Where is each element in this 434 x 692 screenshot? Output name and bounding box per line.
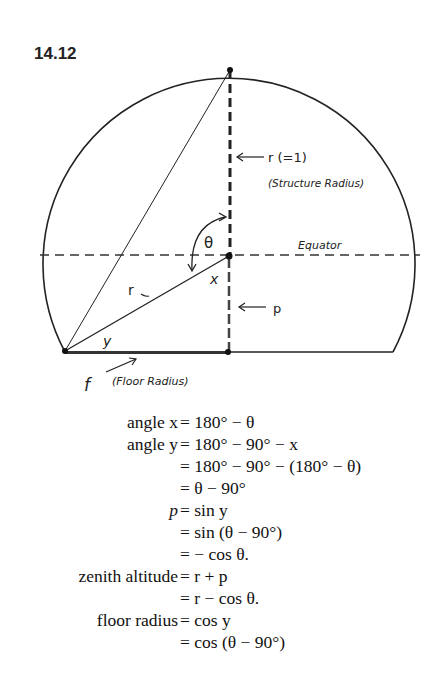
theta-label: θ xyxy=(204,234,213,252)
radius-line xyxy=(65,256,229,351)
equation-lhs: angle x xyxy=(127,412,178,433)
equation-line: = sin (θ − 90°) xyxy=(0,522,434,544)
equation-rhs: = cos (θ − 90°) xyxy=(180,632,285,653)
equation-rhs: = 180° − θ xyxy=(180,412,255,433)
r-radius-label: r xyxy=(128,282,134,298)
equation-line: floor radius = cos y xyxy=(0,610,434,632)
y-angle-label: y xyxy=(102,333,112,349)
equation-line: = θ − 90° xyxy=(0,478,434,500)
top-point xyxy=(227,67,233,73)
equation-rhs: = 180° − 90° − (180° − θ) xyxy=(180,456,361,477)
equation-lhs: zenith altitude xyxy=(78,566,178,587)
equation-line: = − cos θ. xyxy=(0,544,434,566)
equator-label: Equator xyxy=(298,239,343,252)
equation-rhs: = r + p xyxy=(180,566,227,587)
equation-line: angle x = 180° − θ xyxy=(0,412,434,434)
equation-line: = cos (θ − 90°) xyxy=(0,632,434,654)
equation-line: angle y = 180° − 90° − x xyxy=(0,434,434,456)
center-point xyxy=(226,253,233,260)
equation-rhs: = r − cos θ. xyxy=(180,588,259,609)
f-label: f xyxy=(84,375,93,395)
equation-rhs: = θ − 90° xyxy=(180,478,246,499)
floor-center-point xyxy=(225,349,231,355)
equation-lhs: p xyxy=(169,500,178,521)
equation-rhs: = sin (θ − 90°) xyxy=(180,522,282,543)
equation-lhs: angle y xyxy=(127,434,178,455)
equation-line: = 180° − 90° − (180° − θ) xyxy=(0,456,434,478)
x-angle-label: x xyxy=(209,271,219,287)
equation-lhs: floor radius xyxy=(97,610,178,631)
chord-line xyxy=(65,70,230,351)
equation-rhs: = sin y xyxy=(180,500,228,521)
equation-rhs: = 180° − 90° − x xyxy=(180,434,298,455)
equation-line: zenith altitude = r + p xyxy=(0,566,434,588)
equation-line: = r − cos θ. xyxy=(0,588,434,610)
equation-rhs: = − cos θ. xyxy=(180,544,249,565)
r-top-label: r (=1) xyxy=(268,150,307,165)
equation-line: p = sin y xyxy=(0,500,434,522)
p-label: p xyxy=(273,301,281,316)
structure-radius-label: (Structure Radius) xyxy=(268,177,364,189)
floor-left-point xyxy=(62,348,68,354)
floor-radius-label: (Floor Radius) xyxy=(112,375,189,388)
equation-rhs: = cos y xyxy=(180,610,231,631)
